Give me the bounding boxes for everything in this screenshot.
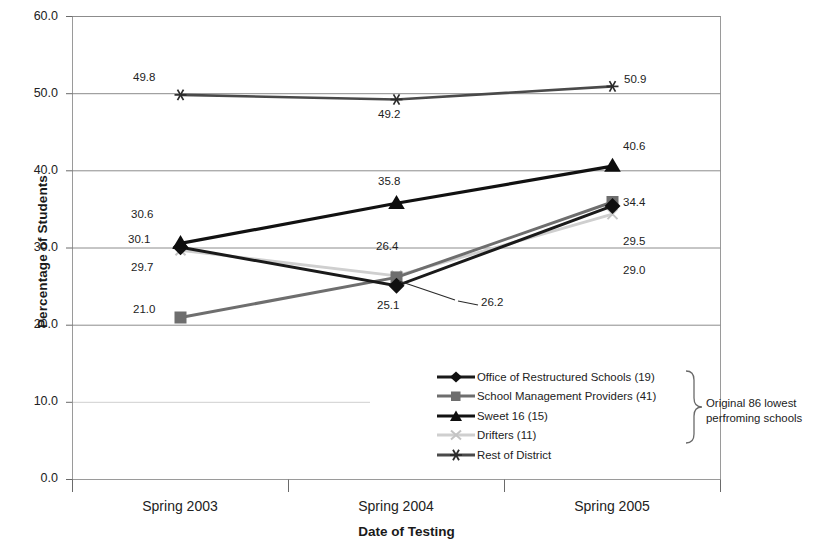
legend-item-office-of-restructured-schools[interactable]: Office of Restructured Schools (19) (437, 367, 656, 387)
legend-label-drifters: Drifters (11) (477, 429, 536, 441)
legend-label-school-management-providers: School Management Providers (41) (477, 390, 656, 402)
legend-label-office-of-restructured-schools: Office of Restructured Schools (19) (477, 371, 655, 383)
data-label-49-2: 49.2 (378, 108, 400, 120)
data-label-35-8: 35.8 (378, 175, 400, 187)
y-tick-40: 40.0 (8, 163, 58, 177)
data-label-21-0: 21.0 (133, 303, 155, 315)
data-label-49-8: 49.8 (133, 71, 155, 83)
y-tick-10: 10.0 (8, 394, 58, 408)
legend-item-school-management-providers[interactable]: School Management Providers (41) (437, 387, 656, 407)
data-label-34-4: 34.4 (623, 196, 645, 208)
data-label-50-9: 50.9 (624, 73, 646, 85)
asterisk-marker-icon (437, 448, 475, 462)
x-axis-ticks (73, 480, 721, 493)
legend: Office of Restructured Schools (19) Scho… (437, 367, 656, 465)
x-axis-title: Date of Testing (0, 524, 813, 539)
data-label-26-2: 26.2 (481, 296, 503, 308)
brace-annotation-line2: perfroming schools (706, 411, 802, 426)
line-chart: Percentage of Students 60.0 50.0 40.0 30… (0, 0, 813, 548)
y-tick-20: 20.0 (8, 317, 58, 331)
y-tick-0: 0.0 (8, 471, 58, 485)
legend-item-drifters[interactable]: Drifters (11) (437, 426, 656, 446)
y-tick-50: 50.0 (8, 86, 58, 100)
data-label-29-7: 29.7 (131, 261, 153, 273)
x-marker-icon (437, 428, 475, 442)
data-label-30-1: 30.1 (128, 233, 150, 245)
legend-label-rest-of-district: Rest of District (477, 449, 551, 461)
plot-canvas (0, 0, 813, 548)
data-label-40-6: 40.6 (623, 140, 645, 152)
legend-item-rest-of-district[interactable]: Rest of District (437, 445, 656, 465)
y-tick-60: 60.0 (8, 9, 58, 23)
data-label-29-0: 29.0 (623, 264, 645, 276)
x-tick-spring-2004: Spring 2004 (326, 498, 466, 514)
data-label-25-1: 25.1 (377, 299, 399, 311)
data-label-30-6: 30.6 (131, 208, 153, 220)
legend-label-sweet-16: Sweet 16 (15) (477, 410, 548, 422)
square-marker-icon (437, 389, 475, 403)
brace-annotation: Original 86 lowest perfroming schools (706, 396, 802, 426)
brace-annotation-line1: Original 86 lowest (706, 396, 802, 411)
triangle-marker-icon (437, 409, 475, 423)
y-axis-ticks (66, 17, 73, 480)
legend-item-sweet-16[interactable]: Sweet 16 (15) (437, 406, 656, 426)
x-tick-spring-2005: Spring 2005 (542, 498, 682, 514)
y-tick-30: 30.0 (8, 240, 58, 254)
diamond-marker-icon (437, 370, 475, 384)
data-label-26-4: 26.4 (376, 240, 398, 252)
data-label-29-5: 29.5 (623, 235, 645, 247)
x-tick-spring-2003: Spring 2003 (110, 498, 250, 514)
